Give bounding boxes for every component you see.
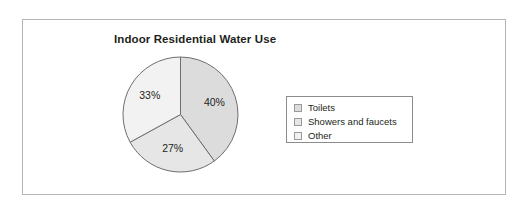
- legend-item-other[interactable]: Other: [294, 129, 412, 142]
- pie-chart: 40%27%33%: [122, 56, 239, 173]
- legend-item-label: Other: [308, 130, 332, 141]
- chart-title: Indoor Residential Water Use: [114, 33, 264, 45]
- legend-item-label: Showers and faucets: [308, 116, 397, 127]
- pie-slice-value-label: 27%: [162, 142, 183, 154]
- figure-root: Indoor Residential Water Use 40%27%33% T…: [0, 0, 529, 213]
- square-swatch-icon: [294, 104, 302, 112]
- pie-svg: 40%27%33%: [122, 56, 239, 173]
- legend-item-label: Toilets: [308, 102, 335, 113]
- pie-slice-value-label: 33%: [139, 89, 160, 101]
- pie-slice-value-label: 40%: [204, 96, 225, 108]
- legend-item-showers-and-faucets[interactable]: Showers and faucets: [294, 115, 412, 128]
- figure-frame: [22, 19, 506, 195]
- pie-slices: [123, 57, 238, 172]
- square-swatch-icon: [294, 118, 302, 126]
- square-swatch-icon: [294, 132, 302, 140]
- legend-item-toilets[interactable]: Toilets: [294, 101, 412, 114]
- chart-legend: Toilets Showers and faucets Other: [286, 96, 413, 143]
